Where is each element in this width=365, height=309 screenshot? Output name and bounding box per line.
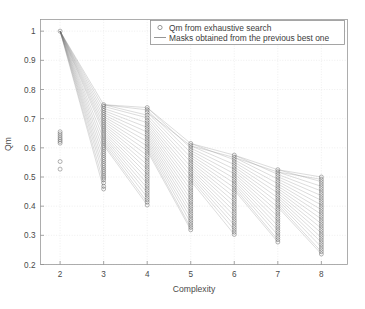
mask-link-line <box>234 157 278 172</box>
mask-link-line <box>278 191 322 224</box>
mask-link-line <box>278 179 322 200</box>
mask-link-line <box>234 183 278 230</box>
mask-link-line <box>147 125 191 181</box>
mask-link-line <box>104 143 148 202</box>
mask-link-line <box>104 129 148 170</box>
mask-link-line <box>147 137 191 204</box>
mask-link-line <box>191 162 235 197</box>
mask-link-line <box>104 106 148 117</box>
mask-link-line <box>191 148 235 169</box>
mask-link-line <box>278 172 322 186</box>
mask-link-line <box>60 31 104 133</box>
x-tick-label: 3 <box>101 270 106 279</box>
mask-link-line <box>104 139 148 193</box>
mask-link-line <box>147 112 191 157</box>
x-axis-title: Complexity <box>173 284 216 294</box>
mask-link-line <box>278 186 322 214</box>
x-axis-ticks: 2345678 <box>58 261 324 279</box>
mask-link-line <box>191 181 235 235</box>
data-point-marker <box>319 224 323 228</box>
mask-link-line <box>278 202 322 247</box>
x-tick-label: 6 <box>232 270 237 279</box>
y-axis-title: Qm <box>3 137 13 151</box>
data-point-marker <box>276 221 280 225</box>
mask-link-line <box>104 111 148 128</box>
mask-link-line <box>234 181 278 226</box>
mask-link-line <box>104 115 148 137</box>
data-point-marker <box>145 184 149 188</box>
plot-frame <box>41 20 348 265</box>
mask-link-line <box>60 31 104 189</box>
mask-link-line <box>234 169 278 202</box>
mask-link-line <box>191 178 235 229</box>
mask-link-line <box>147 132 191 195</box>
mask-link-line <box>104 141 148 197</box>
mask-link-line <box>191 160 235 193</box>
mask-link-line <box>278 184 322 210</box>
data-point-marker <box>232 193 236 197</box>
mask-link-line <box>60 31 104 163</box>
y-tick-label: 0.2 <box>24 261 36 270</box>
mask-link-line <box>234 162 278 188</box>
mask-link-line <box>278 200 322 242</box>
mask-link-line <box>278 205 322 252</box>
y-tick-label: 0.6 <box>24 144 36 153</box>
data-point-marker <box>319 201 323 205</box>
legend-label-1: Masks obtained from the previous best on… <box>169 33 329 43</box>
mask-link-line <box>147 112 191 146</box>
x-tick-label: 5 <box>188 270 193 279</box>
x-tick-label: 7 <box>276 270 281 279</box>
data-point-marker <box>145 160 149 164</box>
mask-link-line <box>60 31 104 157</box>
x-tick-label: 4 <box>145 270 150 279</box>
mask-link-line <box>278 174 322 191</box>
mask-link-line <box>147 151 191 230</box>
mask-link-line <box>60 31 104 151</box>
grid-layer <box>41 20 348 265</box>
scatter-plot: 2345678 0.20.30.40.50.60.70.80.91 Comple… <box>0 0 365 309</box>
mask-link-line <box>104 133 148 179</box>
legend: Qm from exhaustive search Masks obtained… <box>151 21 345 45</box>
mask-link-line <box>234 190 278 242</box>
mask-link-line <box>60 31 104 145</box>
mask-link-line <box>234 155 278 170</box>
y-tick-label: 0.9 <box>24 56 36 65</box>
mask-link-line <box>104 131 148 174</box>
mask-link-line <box>104 145 148 205</box>
mask-link-line <box>104 137 148 188</box>
y-tick-label: 0.5 <box>24 173 36 182</box>
mask-link-line <box>191 143 235 155</box>
y-axis-ticks: 0.20.30.40.50.60.70.80.91 <box>24 27 44 269</box>
mask-link-line <box>147 108 191 144</box>
mask-link-line <box>147 146 191 223</box>
data-point-marker <box>232 225 236 229</box>
legend-label-0: Qm from exhaustive search <box>169 23 272 33</box>
mask-link-line <box>104 123 148 156</box>
data-point-marker <box>189 181 193 185</box>
y-tick-label: 0.8 <box>24 86 36 95</box>
mask-link-line <box>191 153 235 179</box>
x-tick-label: 2 <box>58 270 63 279</box>
mask-link-line <box>147 110 191 153</box>
mask-link-line <box>234 164 278 193</box>
mask-link-line <box>60 31 104 129</box>
mask-link-line <box>234 160 278 184</box>
mask-link-line <box>234 157 278 179</box>
mask-link-line <box>104 121 148 151</box>
mask-link-line <box>191 171 235 215</box>
mask-link-line <box>147 134 191 199</box>
mask-link-line <box>234 188 278 240</box>
y-tick-label: 1 <box>31 27 36 36</box>
mask-link-line <box>191 155 235 183</box>
mask-link-line <box>191 174 235 221</box>
y-tick-label: 0.3 <box>24 231 36 240</box>
figure-container: 2345678 0.20.30.40.50.60.70.80.91 Comple… <box>0 0 365 309</box>
y-tick-label: 0.7 <box>24 115 36 124</box>
mask-link-line <box>234 178 278 221</box>
mask-link-line <box>191 169 235 211</box>
mask-link-line <box>60 31 104 139</box>
data-point-marker <box>232 216 236 220</box>
data-point-marker <box>319 247 323 251</box>
x-tick-label: 8 <box>319 270 324 279</box>
y-tick-label: 0.4 <box>24 202 36 211</box>
